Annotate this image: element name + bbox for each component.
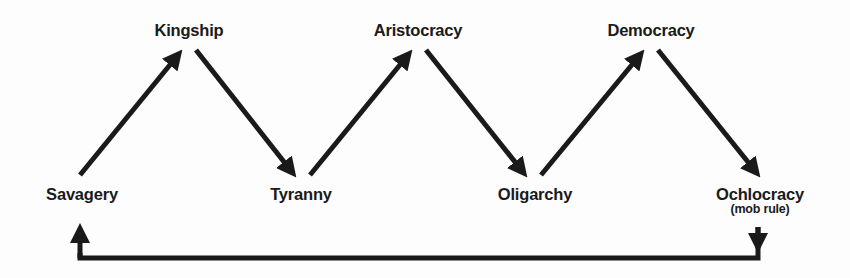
node-label: Tyranny [270,185,332,203]
node-label: Aristocracy [374,21,463,39]
node-label: Kingship [155,21,224,39]
return-loop-arrow [80,227,758,258]
node-label: Oligarchy [498,185,572,203]
arrow-oligarchy-to-democracy [541,55,640,175]
arrow-aristocracy-to-oligarchy [426,50,523,172]
node-label: Savagery [46,185,118,203]
node-savagery: Savagery [46,185,118,203]
node-sublabel: (mob rule) [716,203,804,217]
arrows-layer [0,0,850,278]
node-ochlocracy: Ochlocracy (mob rule) [716,185,804,217]
arrow-tyranny-to-aristocracy [310,55,408,175]
node-tyranny: Tyranny [270,185,332,203]
arrow-democracy-to-ochlocracy [658,50,756,172]
node-kingship: Kingship [155,21,224,39]
arrow-kingship-to-tyranny [196,50,292,172]
node-oligarchy: Oligarchy [498,185,572,203]
node-aristocracy: Aristocracy [374,21,463,39]
node-democracy: Democracy [607,21,694,39]
node-label: Ochlocracy [716,185,804,203]
node-label: Democracy [607,21,694,39]
diagram-canvas: Savagery Kingship Tyranny Aristocracy Ol… [0,0,850,278]
arrow-savagery-to-kingship [80,55,178,175]
